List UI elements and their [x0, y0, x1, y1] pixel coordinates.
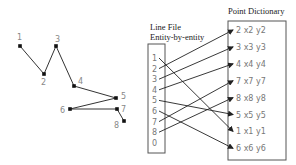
line-file-entry: 1 [152, 54, 157, 63]
vertex-marker [68, 107, 72, 111]
link-arrows [159, 30, 233, 148]
vertex-label: 1 [17, 33, 22, 42]
vertex-label: 5 [121, 92, 126, 101]
line-file-title: Line File [150, 22, 181, 32]
line-file-entry: 3 [152, 75, 157, 84]
line-file-subtitle: Entity-by-entity [150, 32, 205, 42]
point-dictionary-row: 4 x4 y4 [236, 60, 266, 69]
line-file-entry: 8 [152, 128, 157, 137]
point-dictionary-title: Point Dictionary [228, 6, 285, 16]
vertex-marker [122, 119, 126, 123]
link-arrow [159, 111, 233, 148]
line-file-entry: 4 [152, 86, 157, 95]
line-file-entries: 123456780 [152, 54, 157, 148]
point-dictionary: Point Dictionary 2 x2 y23 x3 y34 x4 y47 … [228, 6, 286, 160]
point-dictionary-row: 1 x1 y1 [236, 127, 266, 136]
point-dictionary-row: 7 x7 y7 [236, 77, 266, 86]
vertex-marker [115, 107, 119, 111]
polyline-path [20, 46, 124, 121]
diagram-canvas: 12345678 Line File Entity-by-entity 1234… [0, 0, 296, 165]
link-arrow [159, 58, 233, 131]
vertex-label: 2 [41, 78, 46, 87]
vertex-marker [42, 72, 46, 76]
vertex-label: 4 [78, 77, 83, 86]
polyline-graphic: 12345678 [17, 33, 126, 130]
vertex-label: 3 [55, 35, 60, 44]
line-file: Line File Entity-by-entity 123456780 [148, 22, 205, 153]
vertex-marker [54, 44, 58, 48]
vertex-marker [72, 84, 76, 88]
vertex-label: 6 [60, 106, 65, 115]
line-file-entry: 5 [152, 96, 157, 105]
vertex-label: 8 [114, 121, 119, 130]
line-file-entry: 0 [152, 139, 157, 148]
point-dictionary-row: 3 x3 y3 [236, 43, 266, 52]
point-dictionary-rows: 2 x2 y23 x3 y34 x4 y47 x7 y78 x8 y85 x5 … [236, 26, 266, 153]
point-dictionary-row: 6 x6 y6 [236, 144, 266, 153]
link-arrow [159, 64, 233, 90]
vertex-label: 7 [121, 105, 126, 114]
point-dictionary-row: 5 x5 y5 [236, 111, 266, 120]
vertex-marker [114, 96, 118, 100]
point-dictionary-row: 2 x2 y2 [236, 26, 266, 35]
line-file-entry: 2 [152, 65, 157, 74]
line-file-entry: 7 [152, 118, 157, 127]
point-dictionary-row: 8 x8 y8 [236, 94, 266, 103]
line-file-entry: 6 [152, 107, 157, 116]
vertex-marker [18, 44, 22, 48]
link-arrow [159, 81, 233, 122]
point-dictionary-box [228, 21, 286, 160]
